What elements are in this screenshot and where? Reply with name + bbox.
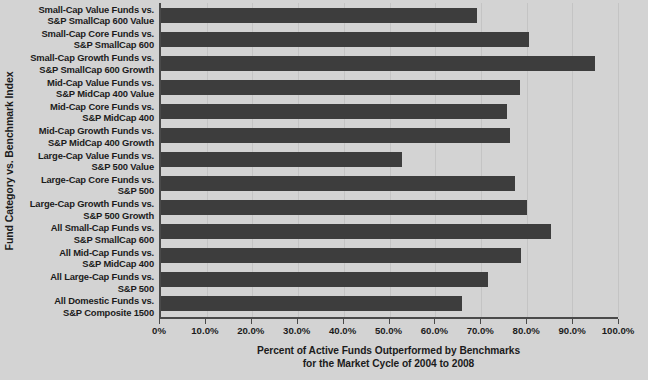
x-tick-mark <box>434 319 435 324</box>
category-label-line: S&P 500 Growth <box>83 210 154 222</box>
category-label: Small-Cap Value Funds vs.S&P SmallCap 60… <box>18 3 157 27</box>
bar <box>161 104 507 119</box>
x-tick-mark <box>572 319 573 324</box>
category-label-line: Large-Cap Value Funds vs. <box>38 150 154 162</box>
bar-row <box>161 147 618 171</box>
bar <box>161 128 510 143</box>
bar <box>161 80 520 95</box>
y-axis-title: Fund Category vs. Benchmark Index <box>0 0 18 322</box>
x-tick-label: 20.0% <box>237 325 264 336</box>
category-label-line: Mid-Cap Value Funds vs. <box>47 77 154 89</box>
x-tick-mark <box>389 319 390 324</box>
x-tick-mark <box>297 319 298 324</box>
category-label-line: All Domestic Funds vs. <box>54 295 154 307</box>
x-tick-mark <box>526 319 527 324</box>
x-tick-mark <box>205 319 206 324</box>
bar-row <box>161 123 618 147</box>
x-axis: 0%10.0%20.0%30.0%40.0%50.0%60.0%70.0%80.… <box>159 319 618 341</box>
x-tick-mark <box>618 319 619 324</box>
category-label-line: Mid-Cap Core Funds vs. <box>50 101 154 113</box>
x-tick-label: 60.0% <box>421 325 448 336</box>
bar-row <box>161 99 618 123</box>
x-axis-title: Percent of Active Funds Outperformed by … <box>159 345 618 370</box>
x-tick-label: 50.0% <box>375 325 402 336</box>
category-label: Mid-Cap Value Funds vs.S&P MidCap 400 Va… <box>18 76 157 100</box>
x-tick-label: 0% <box>152 325 166 336</box>
category-label: Small-Cap Core Funds vs.S&P SmallCap 600 <box>18 27 157 51</box>
category-label-line: Large-Cap Core Funds vs. <box>41 174 154 186</box>
x-tick-label: 80.0% <box>513 325 540 336</box>
bar <box>161 296 462 311</box>
bar-row <box>161 291 618 315</box>
category-label: Large-Cap Growth Funds vs.S&P 500 Growth <box>18 198 157 222</box>
bar-row <box>161 195 618 219</box>
bar <box>161 56 595 71</box>
category-label: Large-Cap Value Funds vs.S&P 500 Value <box>18 149 157 173</box>
category-label: All Domestic Funds vs.S&P Composite 1500 <box>18 295 157 319</box>
category-label-line: Small-Cap Core Funds vs. <box>41 28 154 40</box>
category-label: Mid-Cap Growth Funds vs.S&P MidCap 400 G… <box>18 125 157 149</box>
category-label-column: Small-Cap Value Funds vs.S&P SmallCap 60… <box>18 3 157 319</box>
bar <box>161 152 402 167</box>
category-label-line: Mid-Cap Growth Funds vs. <box>39 125 154 137</box>
x-tick-label: 40.0% <box>329 325 356 336</box>
bar-row <box>161 75 618 99</box>
category-label-line: All Large-Cap Funds vs. <box>50 271 154 283</box>
gridline <box>618 3 619 317</box>
bar-chart-figure: Fund Category vs. Benchmark Index Small-… <box>0 0 648 380</box>
category-label-line: S&P SmallCap 600 <box>74 39 154 51</box>
category-label-line: All Small-Cap Funds vs. <box>51 222 154 234</box>
category-label: All Large-Cap Funds vs.S&P 500 <box>18 270 157 294</box>
category-label: All Mid-Cap Funds vs.S&P MidCap 400 <box>18 246 157 270</box>
category-label-line: S&P MidCap 400 <box>82 112 154 124</box>
category-label-line: S&P 500 <box>118 283 154 295</box>
category-label-line: S&P MidCap 400 <box>82 258 154 270</box>
category-label-line: Large-Cap Growth Funds vs. <box>30 198 154 210</box>
bar-row <box>161 27 618 51</box>
bar <box>161 8 477 23</box>
plot-area <box>159 3 618 319</box>
bar <box>161 224 551 239</box>
category-label-line: S&P MidCap 400 Value <box>56 88 154 100</box>
x-tick-label: 70.0% <box>467 325 494 336</box>
x-tick-mark <box>159 319 160 324</box>
x-tick-mark <box>480 319 481 324</box>
bar-row <box>161 243 618 267</box>
category-label-line: All Mid-Cap Funds vs. <box>59 247 154 259</box>
category-label-line: S&P MidCap 400 Growth <box>48 137 154 149</box>
bar <box>161 32 529 47</box>
x-tick-mark <box>251 319 252 324</box>
category-label-line: S&P 500 <box>118 185 154 197</box>
bar <box>161 176 515 191</box>
x-tick-label: 100.0% <box>602 325 635 336</box>
bar <box>161 200 527 215</box>
category-label-line: S&P 500 Value <box>91 161 154 173</box>
bar <box>161 272 488 287</box>
bar <box>161 248 521 263</box>
category-label-line: S&P SmallCap 600 Value <box>48 15 154 27</box>
bar-row <box>161 219 618 243</box>
bar-row <box>161 171 618 195</box>
category-label-line: Small-Cap Value Funds vs. <box>38 4 154 16</box>
x-axis-title-line: Percent of Active Funds Outperformed by … <box>159 345 618 358</box>
category-label-line: Small-Cap Growth Funds vs. <box>30 52 154 64</box>
x-tick-mark <box>343 319 344 324</box>
category-label-line: S&P SmallCap 600 Growth <box>39 64 154 76</box>
x-tick-label: 30.0% <box>283 325 310 336</box>
bar-row <box>161 3 618 27</box>
category-label: Mid-Cap Core Funds vs.S&P MidCap 400 <box>18 100 157 124</box>
y-axis-title-text: Fund Category vs. Benchmark Index <box>3 72 15 251</box>
bar-row <box>161 267 618 291</box>
category-label: Large-Cap Core Funds vs.S&P 500 <box>18 173 157 197</box>
x-tick-label: 10.0% <box>191 325 218 336</box>
category-label: All Small-Cap Funds vs.S&P SmallCap 600 <box>18 222 157 246</box>
x-axis-title-line: for the Market Cycle of 2004 to 2008 <box>159 358 618 371</box>
x-tick-label: 90.0% <box>558 325 585 336</box>
category-label: Small-Cap Growth Funds vs.S&P SmallCap 6… <box>18 52 157 76</box>
category-label-line: S&P SmallCap 600 <box>74 234 154 246</box>
bar-row <box>161 51 618 75</box>
category-label-line: S&P Composite 1500 <box>63 307 154 319</box>
bars-group <box>161 3 618 315</box>
